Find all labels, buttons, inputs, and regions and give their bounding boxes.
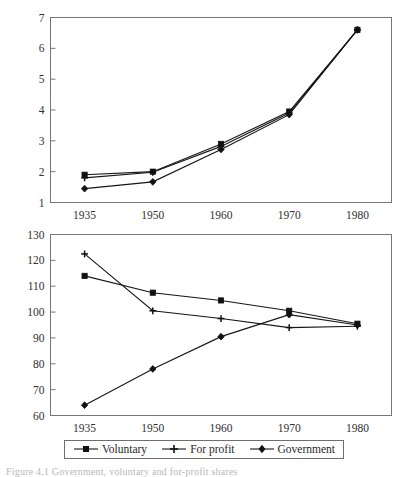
x-tick-label: 1950 bbox=[141, 422, 164, 434]
y-axis-labels-top: 1234567 bbox=[39, 12, 45, 209]
series-polyline bbox=[85, 30, 358, 189]
chart-top: 1234567 19351950196019701980 bbox=[0, 0, 408, 228]
y-tick-label: 110 bbox=[28, 280, 45, 292]
y-tick-label: 3 bbox=[39, 135, 45, 147]
y-tick-label: 120 bbox=[27, 254, 45, 266]
point-marker-diamond bbox=[150, 178, 156, 185]
legend-label-government: Government bbox=[278, 443, 335, 455]
x-tick-label: 1970 bbox=[278, 209, 301, 221]
x-axis-labels-bottom: 19351950196019701980 bbox=[73, 422, 369, 434]
square-marker-icon bbox=[73, 444, 99, 454]
legend-item-government: Government bbox=[249, 443, 335, 455]
chart-bottom-svg: 60708090100110120130 1935195019601970198… bbox=[0, 228, 408, 440]
legend-wrap: Voluntary For profit Government bbox=[0, 440, 408, 459]
y-tick-label: 2 bbox=[39, 166, 45, 178]
point-marker-plus bbox=[218, 315, 225, 322]
y-tick-label: 90 bbox=[33, 332, 45, 344]
x-tick-label: 1935 bbox=[73, 422, 96, 434]
x-tick-label: 1960 bbox=[210, 422, 233, 434]
y-tick-label: 6 bbox=[39, 42, 45, 54]
legend-item-voluntary: Voluntary bbox=[73, 443, 147, 455]
diamond-marker-icon bbox=[249, 444, 275, 454]
series-for-profit bbox=[81, 26, 361, 181]
series-voluntary bbox=[82, 27, 360, 177]
x-tick-label: 1960 bbox=[210, 209, 233, 221]
y-tick-label: 80 bbox=[33, 358, 45, 370]
point-marker-square bbox=[82, 273, 87, 278]
point-marker-plus bbox=[286, 324, 293, 331]
point-marker-diamond bbox=[81, 402, 87, 409]
series-polyline bbox=[85, 315, 358, 406]
series-government bbox=[81, 26, 360, 192]
plot-frame-bottom bbox=[51, 235, 392, 416]
point-marker-square bbox=[218, 298, 223, 303]
point-marker-square bbox=[150, 290, 155, 295]
figure-container: 1234567 19351950196019701980 60708090100… bbox=[0, 0, 408, 477]
x-tick-label: 1935 bbox=[73, 209, 96, 221]
legend-item-for-profit: For profit bbox=[161, 443, 234, 455]
legend-label-voluntary: Voluntary bbox=[102, 443, 147, 455]
y-tick-label: 7 bbox=[39, 12, 45, 24]
series-government bbox=[81, 311, 360, 408]
point-marker-diamond bbox=[81, 185, 87, 192]
x-axis-labels-top: 19351950196019701980 bbox=[73, 209, 369, 221]
plot-frame-top bbox=[51, 18, 392, 203]
y-axis-ticks-top bbox=[51, 18, 56, 203]
y-axis-labels-bottom: 60708090100110120130 bbox=[27, 229, 45, 422]
y-tick-label: 100 bbox=[27, 306, 45, 318]
point-marker-diamond bbox=[218, 333, 224, 340]
series-group-top bbox=[81, 26, 361, 192]
x-tick-label: 1950 bbox=[141, 209, 164, 221]
plus-marker-icon bbox=[161, 444, 187, 454]
y-tick-label: 70 bbox=[33, 384, 45, 396]
figure-caption: Figure 4.1 Government, voluntary and for… bbox=[6, 466, 402, 477]
chart-bottom: 60708090100110120130 1935195019601970198… bbox=[0, 228, 408, 440]
series-group-bottom bbox=[81, 250, 361, 408]
y-tick-label: 1 bbox=[39, 197, 45, 209]
x-tick-label: 1980 bbox=[346, 209, 369, 221]
y-axis-ticks-bottom bbox=[51, 235, 56, 416]
legend-label-for-profit: For profit bbox=[190, 443, 234, 455]
chart-legend: Voluntary For profit Government bbox=[64, 440, 344, 459]
chart-top-svg: 1234567 19351950196019701980 bbox=[0, 0, 408, 228]
y-tick-label: 60 bbox=[33, 410, 45, 422]
series-polyline bbox=[85, 30, 358, 178]
y-tick-label: 5 bbox=[39, 73, 45, 85]
point-marker-diamond bbox=[150, 366, 156, 373]
x-tick-label: 1970 bbox=[278, 422, 301, 434]
y-tick-label: 130 bbox=[27, 229, 45, 241]
y-tick-label: 4 bbox=[39, 104, 45, 116]
x-tick-label: 1980 bbox=[346, 422, 369, 434]
